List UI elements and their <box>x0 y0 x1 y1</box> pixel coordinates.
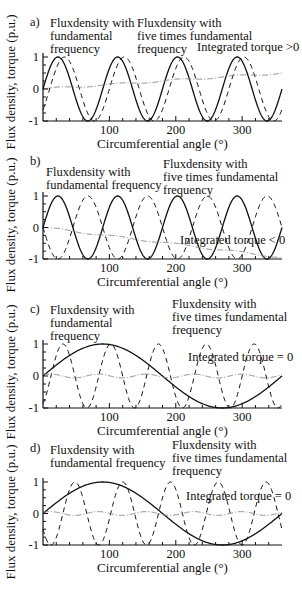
panel-label: c) <box>30 302 40 316</box>
y-axis-title: Flux density, torque (p.u.) <box>3 15 18 150</box>
x-tick-label: 100 <box>100 123 119 137</box>
annotation-label: Integrated torque >0 <box>197 40 299 54</box>
annotation-label: frequency <box>163 183 214 197</box>
y-tick-label: -1 <box>29 114 39 128</box>
x-tick-label: 200 <box>166 410 185 424</box>
panel-label: a) <box>30 15 40 29</box>
panel-label: b) <box>30 154 40 168</box>
annotation-label: five times fundamental <box>172 451 288 465</box>
annotation-label: fundamental <box>50 29 113 43</box>
y-tick-label: 1 <box>33 189 39 203</box>
y-tick-label: 0 <box>33 221 39 235</box>
y-tick-label: -1 <box>29 252 39 266</box>
chart-panel-d: 100200300-101Circumferential angle (°)Fl… <box>3 438 291 579</box>
annotation-label: frequency <box>172 464 223 478</box>
chart-panel-a: 100200300-101Circumferential angle (°)Fl… <box>3 15 299 151</box>
y-tick-label: 1 <box>33 50 39 64</box>
x-tick-label: 100 <box>100 410 119 424</box>
y-tick-label: 1 <box>33 475 39 489</box>
annotation-label: Fluxdensity with <box>46 165 131 179</box>
x-tick-label: 100 <box>100 547 119 561</box>
annotation-label: frequency <box>137 42 188 56</box>
x-tick-label: 300 <box>233 261 252 275</box>
annotation-label: Fluxdensity with <box>50 16 135 30</box>
series-fundamental <box>43 57 282 121</box>
annotation-label: Fluxdensity with <box>172 297 257 311</box>
annotation-label: Fluxdensity with <box>50 443 135 457</box>
x-tick-label: 300 <box>233 547 252 561</box>
annotation-label: Integrated torque = 0 <box>186 489 291 503</box>
annotation-label: Fluxdensity with <box>163 157 248 171</box>
x-axis-title: Circumferential angle (°) <box>97 423 228 438</box>
y-axis-title: Flux density, torque (p.u.) <box>3 445 18 580</box>
panel-label: d) <box>30 441 40 455</box>
y-tick-label: 0 <box>33 82 39 96</box>
y-axis-title: Flux density, torque (p.u.) <box>3 158 18 293</box>
y-axis-title: Flux density, torque (p.u.) <box>3 305 18 440</box>
y-tick-label: -1 <box>29 538 39 552</box>
annotation-label: frequency <box>172 323 223 337</box>
y-tick-label: 0 <box>33 369 39 383</box>
series-fundamental <box>43 196 282 259</box>
annotation-label: fundamental frequency <box>50 456 166 470</box>
x-axis-title: Circumferential angle (°) <box>97 560 228 575</box>
annotation-label: fundamental <box>50 316 113 330</box>
x-tick-label: 200 <box>166 547 185 561</box>
annotation-label: Fluxdensity with <box>137 16 222 30</box>
annotation-label: fundamental frequency <box>46 178 162 192</box>
x-tick-label: 200 <box>166 123 185 137</box>
x-tick-label: 200 <box>166 261 185 275</box>
x-tick-label: 100 <box>100 261 119 275</box>
annotation-label: Fluxdensity with <box>172 438 257 452</box>
annotation-label: Fluxdensity with <box>50 303 135 317</box>
x-axis-title: Circumferential angle (°) <box>97 136 228 151</box>
annotation-label: frequency <box>50 329 101 343</box>
annotation-label: Integrated torque = 0 <box>188 350 293 364</box>
x-tick-label: 300 <box>233 123 252 137</box>
x-axis-title: Circumferential angle (°) <box>97 274 228 289</box>
y-tick-label: 1 <box>33 337 39 351</box>
x-tick-label: 300 <box>233 410 252 424</box>
chart-panel-c: 100200300-101Circumferential angle (°)Fl… <box>3 297 293 439</box>
y-tick-label: -1 <box>29 401 39 415</box>
figure: 100200300-101Circumferential angle (°)Fl… <box>0 0 302 592</box>
chart-panel-b: 100200300-101Circumferential angle (°)Fl… <box>3 154 285 292</box>
annotation-label: five times fundamental <box>172 310 288 324</box>
annotation-label: Integrated torque < 0 <box>180 233 285 247</box>
annotation-label: frequency <box>50 42 101 56</box>
annotation-label: five times fundamental <box>163 170 279 184</box>
y-tick-label: 0 <box>33 507 39 521</box>
